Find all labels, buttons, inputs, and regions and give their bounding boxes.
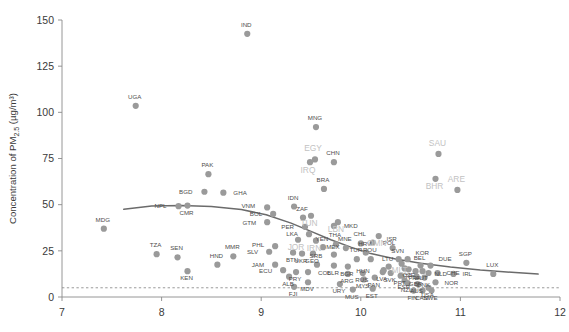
data-point-pak[interactable]	[205, 171, 211, 177]
data-point-lux[interactable]	[490, 271, 496, 277]
x-tick-label: 11	[455, 306, 466, 318]
point-label-uga: UGA	[128, 93, 142, 100]
trendline-group	[124, 205, 538, 274]
data-point-mng[interactable]	[313, 124, 319, 130]
point-label-bgd: BGD	[179, 188, 193, 195]
point-label-cmr: CMR	[179, 209, 194, 216]
data-point-bol[interactable]	[270, 211, 276, 217]
chart-canvas: 0255075100125150789101112 MDGUGATZANPLCM…	[0, 0, 569, 332]
point-label-vnm: VNM	[241, 202, 255, 209]
data-point-vnm[interactable]	[264, 204, 270, 210]
point-label-slv: SLV	[247, 248, 259, 255]
point-label-blr: BLR	[327, 269, 340, 276]
data-point-bel[interactable]	[417, 263, 423, 269]
point-label-egy: EGY	[304, 143, 322, 153]
point-label-tun: TUN	[300, 218, 317, 228]
point-label-ken: KEN	[180, 274, 193, 281]
y-tick-label: 150	[36, 14, 54, 26]
point-label-due: DUE	[439, 255, 452, 262]
data-point-sau[interactable]	[435, 151, 441, 157]
data-point-ind[interactable]	[244, 31, 250, 37]
y-tick-label: 50	[42, 198, 54, 210]
data-point-phl[interactable]	[272, 243, 278, 249]
data-point-chn[interactable]	[331, 159, 337, 165]
data-point-mex[interactable]	[331, 251, 337, 257]
data-point-uga[interactable]	[133, 103, 139, 109]
data-point-rou[interactable]	[368, 256, 374, 262]
point-label-mus: MUS	[345, 293, 359, 300]
data-point-hnd[interactable]	[214, 262, 220, 268]
point-label-irl: IRL	[462, 270, 472, 277]
data-point-gtm[interactable]	[264, 219, 270, 225]
point-label-lux: LUX	[486, 261, 498, 268]
point-label-isr: ISR	[387, 235, 398, 242]
point-label-sau: SAU	[429, 138, 446, 148]
point-label-ind: IND	[241, 21, 252, 28]
y-tick-label: 25	[42, 245, 54, 257]
data-point-hun[interactable]	[381, 267, 387, 273]
point-label-bel: BEL	[414, 254, 426, 261]
data-point-nor[interactable]	[432, 279, 438, 285]
point-label-tza: TZA	[150, 241, 163, 248]
data-point-tur[interactable]	[354, 256, 360, 262]
data-point-mmr[interactable]	[230, 253, 236, 259]
y-tick-label: 100	[36, 106, 54, 118]
x-tick-label: 9	[258, 306, 264, 318]
data-point-mne[interactable]	[343, 245, 349, 251]
data-point-lka[interactable]	[306, 231, 312, 237]
data-point-ecu[interactable]	[280, 267, 286, 273]
svg-text:Concentration of PM2.5 (µg/m³): Concentration of PM2.5 (µg/m³)	[7, 93, 20, 224]
y-tick-label: 0	[48, 291, 54, 303]
point-label-lka: LKA	[286, 230, 299, 237]
point-label-tur: TUR	[349, 246, 362, 253]
point-label-gha: GHA	[233, 189, 247, 196]
point-label-mdg: MDG	[96, 216, 111, 223]
y-tick-label: 125	[36, 60, 54, 72]
data-point-mdg[interactable]	[101, 226, 107, 232]
point-label-irq: IRQ	[301, 165, 316, 175]
data-point-slv[interactable]	[266, 249, 272, 255]
point-label-irn: IRN	[307, 243, 321, 253]
point-label-bol: BOL	[250, 210, 263, 217]
y-axis-title-text: Concentration of PM2.5 (µg/m³)	[7, 93, 20, 224]
point-label-sen: SEN	[170, 244, 183, 251]
point-label-mng: MNG	[308, 114, 323, 121]
point-label-hun: HUN	[356, 267, 369, 274]
data-point-kor[interactable]	[405, 256, 411, 262]
data-point-are[interactable]	[454, 187, 460, 193]
point-label-arg: ARG	[340, 277, 354, 284]
point-label-alb: ALB	[282, 280, 294, 287]
point-label-mex: MEX	[326, 243, 339, 250]
point-label-bhr: BHR	[426, 181, 444, 191]
point-label-mmr: MMR	[225, 243, 240, 250]
point-label-swe: SWE	[423, 294, 437, 301]
data-point-bgd[interactable]	[201, 189, 207, 195]
y-axis-title: Concentration of PM2.5 (µg/m³)	[7, 93, 20, 224]
data-point-jam[interactable]	[272, 262, 278, 268]
data-point-sgp[interactable]	[463, 260, 469, 266]
data-point-sen[interactable]	[174, 254, 180, 260]
point-label-che: CHE	[446, 269, 459, 276]
point-label-are: ARE	[448, 174, 466, 184]
point-label-mkd: MKD	[344, 222, 358, 229]
point-label-zaf: ZAF	[296, 205, 308, 212]
trend-curve	[124, 205, 538, 274]
x-tick-label: 10	[355, 306, 367, 318]
data-point-due[interactable]	[427, 263, 433, 269]
point-label-jor: JOR	[288, 242, 305, 252]
point-label-npl: NPL	[154, 202, 167, 209]
point-label-ury: URY	[332, 287, 345, 294]
point-label-svn: SVN	[391, 247, 404, 254]
point-label-gtm: GTM	[242, 219, 256, 226]
x-tick-label: 12	[554, 306, 566, 318]
point-label-mdv: MDV	[300, 285, 315, 292]
point-label-per: PER	[281, 223, 294, 230]
point-label-pak: PAK	[201, 161, 214, 168]
data-point-col[interactable]	[305, 269, 311, 275]
data-point-tza[interactable]	[154, 251, 160, 257]
data-point-bra[interactable]	[321, 186, 327, 192]
point-label-bra: BRA	[317, 176, 331, 183]
point-label-chl: CHL	[354, 230, 367, 237]
point-label-hnd: HND	[210, 252, 224, 259]
data-point-gha[interactable]	[220, 190, 226, 196]
